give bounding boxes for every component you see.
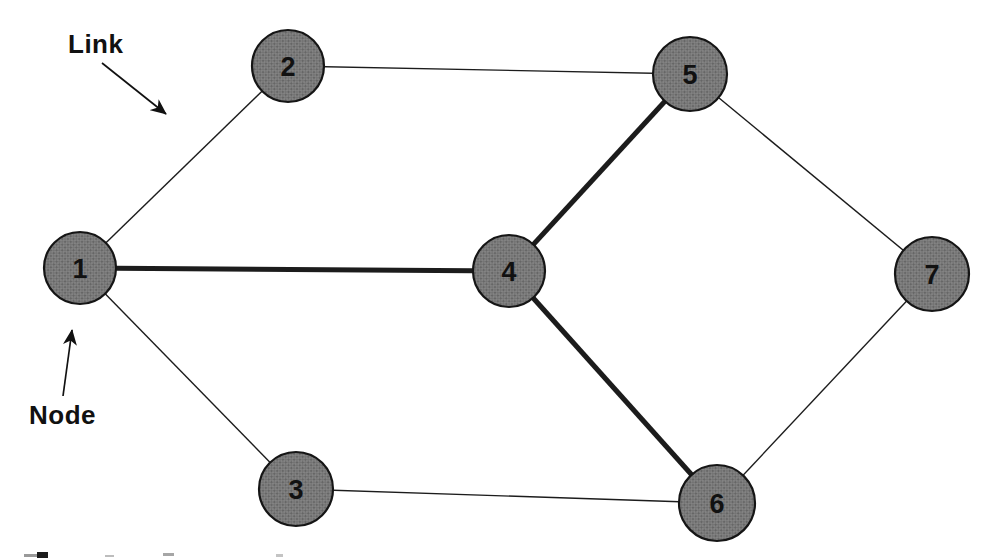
link-annotation-label: Link [68, 29, 123, 59]
node-5: 5 [653, 37, 727, 111]
node-7: 7 [895, 237, 969, 311]
node-3-label: 3 [288, 475, 303, 505]
edge-6-7-thin [717, 274, 932, 503]
node-6-label: 6 [709, 489, 724, 519]
node-5-label: 5 [682, 60, 697, 90]
edge-4-6-thick [509, 271, 717, 503]
node-1: 1 [44, 232, 116, 304]
cutoff-text-mark-1 [24, 554, 37, 557]
node-4: 4 [473, 235, 545, 307]
cutoff-text-mark-3 [105, 555, 114, 557]
cutoff-text-mark-5 [276, 554, 283, 557]
edge-5-7-thin [690, 74, 932, 274]
node-4-label: 4 [501, 257, 516, 287]
node-2: 2 [252, 30, 324, 102]
node-2-label: 2 [280, 52, 295, 82]
annotations-layer: Link Node [29, 29, 166, 430]
cutoff-text-mark-4 [163, 553, 174, 556]
node-annotation-arrow [63, 330, 72, 396]
network-diagram: 1234567 Link Node [0, 0, 1002, 558]
cutoff-text-mark-2 [37, 552, 48, 558]
edge-1-3-thin [80, 268, 296, 489]
edge-1-4-thick [80, 268, 509, 271]
network-figure: 1234567 Link Node [0, 0, 1002, 558]
node-3: 3 [259, 452, 333, 526]
link-annotation-arrow [102, 63, 166, 114]
edge-3-6-thin [296, 489, 717, 503]
node-6: 6 [679, 465, 755, 541]
cutoff-caption-fragments [24, 552, 283, 558]
node-1-label: 1 [72, 254, 87, 284]
nodes-layer: 1234567 [44, 30, 969, 541]
node-7-label: 7 [924, 260, 939, 290]
edge-2-5-thin [288, 66, 690, 74]
edge-4-5-thick [509, 74, 690, 271]
node-annotation-label: Node [29, 400, 96, 430]
edge-1-2-thin [80, 66, 288, 268]
